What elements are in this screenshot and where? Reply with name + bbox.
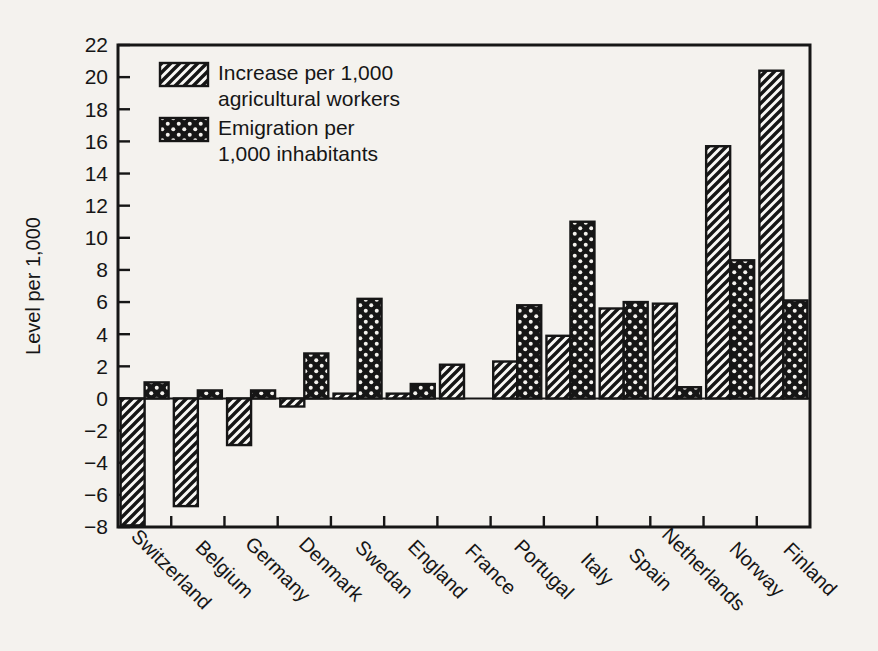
bar-norway-increase bbox=[706, 146, 730, 398]
y-tick-label: 6 bbox=[96, 290, 108, 313]
bar-finland-increase bbox=[759, 71, 783, 399]
legend-swatch-increase bbox=[160, 63, 208, 86]
scanned-bar-chart-figure: −8−6−4−20246810121416182022Level per 1,0… bbox=[0, 0, 878, 651]
x-tick-label-italy: Italy bbox=[577, 548, 618, 589]
bar-spain-increase bbox=[600, 308, 624, 398]
legend-label-increase-line2: agricultural workers bbox=[218, 87, 400, 110]
bar-spain-emigration bbox=[624, 302, 648, 398]
emigration-bar-chart: −8−6−4−20246810121416182022Level per 1,0… bbox=[0, 0, 878, 651]
y-tick-label: 10 bbox=[85, 226, 108, 249]
x-tick-label-spain: Spain bbox=[625, 543, 677, 595]
x-tick-label-netherlands: Netherlands bbox=[658, 523, 750, 615]
x-tick-label-portugal: Portugal bbox=[510, 535, 578, 603]
bar-portugal-increase bbox=[493, 362, 517, 399]
bar-switzerland-emigration bbox=[145, 382, 169, 398]
y-tick-label: 18 bbox=[85, 98, 108, 121]
bar-germany-emigration bbox=[251, 390, 275, 398]
bar-italy-increase bbox=[546, 336, 570, 399]
y-tick-label: −2 bbox=[84, 419, 108, 442]
y-tick-label: 22 bbox=[85, 33, 108, 56]
bar-finland-emigration bbox=[783, 300, 807, 398]
bar-italy-emigration bbox=[570, 222, 594, 399]
bar-swedan-emigration bbox=[358, 299, 382, 399]
y-tick-label: 12 bbox=[85, 194, 108, 217]
bar-denmark-emigration bbox=[304, 353, 328, 398]
bar-belgium-increase bbox=[174, 398, 198, 506]
bar-netherlands-increase bbox=[653, 304, 677, 399]
bar-germany-increase bbox=[227, 398, 251, 445]
bar-england-emigration bbox=[411, 384, 435, 398]
y-axis-title: Level per 1,000 bbox=[22, 217, 44, 355]
legend-label-increase-line1: Increase per 1,000 bbox=[218, 61, 393, 84]
y-tick-label: 4 bbox=[96, 323, 108, 346]
y-tick-label: 14 bbox=[85, 162, 109, 185]
bar-switzerland-increase bbox=[121, 398, 145, 525]
bar-norway-emigration bbox=[730, 260, 754, 398]
bar-denmark-increase bbox=[280, 398, 304, 406]
bar-france-increase bbox=[440, 365, 464, 399]
bar-belgium-emigration bbox=[198, 390, 222, 398]
bar-netherlands-emigration bbox=[677, 387, 701, 398]
y-tick-label: 16 bbox=[85, 130, 108, 153]
y-tick-label: 2 bbox=[96, 355, 108, 378]
bar-england-increase bbox=[387, 394, 411, 399]
legend-label-emigration-line2: 1,000 inhabitants bbox=[218, 142, 378, 165]
bar-portugal-emigration bbox=[517, 305, 541, 398]
legend: Increase per 1,000agricultural workersEm… bbox=[160, 61, 400, 165]
y-tick-label: 20 bbox=[85, 65, 108, 88]
legend-swatch-emigration bbox=[160, 118, 208, 141]
y-tick-label: 8 bbox=[96, 258, 108, 281]
x-tick-label-switzerland: Switzerland bbox=[127, 525, 216, 614]
y-tick-label: 0 bbox=[96, 387, 108, 410]
x-tick-label-finland: Finland bbox=[779, 538, 841, 600]
y-tick-label: −8 bbox=[84, 515, 108, 538]
y-tick-label: −4 bbox=[84, 451, 108, 474]
x-tick-label-england: England bbox=[404, 535, 471, 602]
bar-swedan-increase bbox=[334, 394, 358, 399]
legend-label-emigration-line1: Emigration per bbox=[218, 116, 355, 139]
y-tick-label: −6 bbox=[84, 483, 108, 506]
